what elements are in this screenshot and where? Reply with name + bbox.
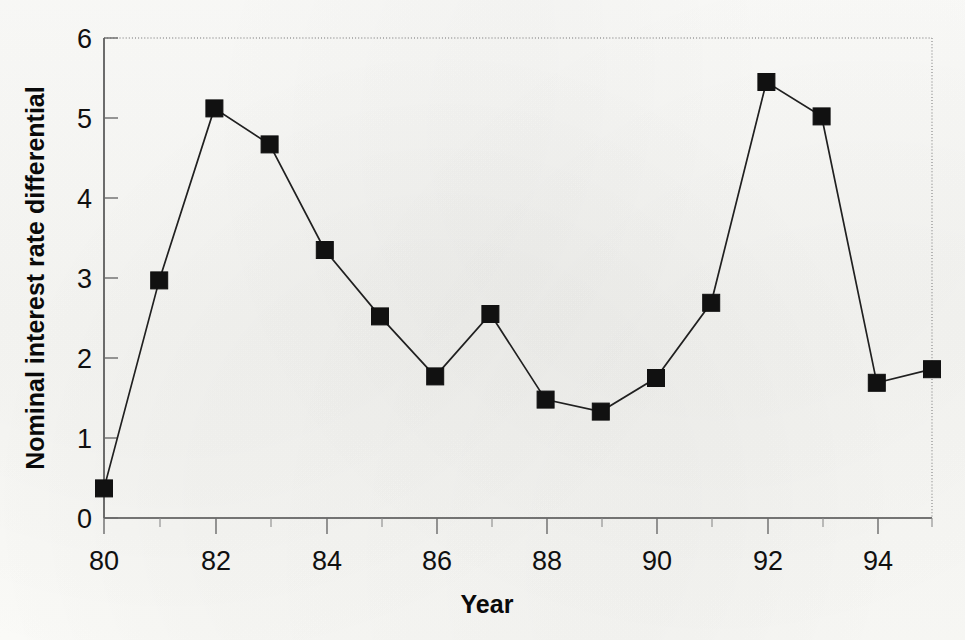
- x-tick-label-92: 92: [753, 546, 783, 576]
- data-point-85: [372, 308, 389, 325]
- data-point-95: [924, 361, 941, 378]
- data-point-87: [482, 306, 499, 323]
- series-markers: [96, 74, 941, 497]
- data-point-83: [261, 136, 278, 153]
- x-tick-label-88: 88: [532, 546, 562, 576]
- y-tick-label-3: 3: [77, 264, 92, 294]
- data-point-89: [592, 403, 609, 420]
- data-point-81: [151, 272, 168, 289]
- x-tick-label-90: 90: [642, 546, 672, 576]
- data-point-93: [813, 108, 830, 125]
- y-tick-label-2: 2: [77, 344, 92, 374]
- line-chart: 6 5 4 3 2 1 0: [0, 0, 965, 640]
- y-axis-title: Nominal interest rate differential: [21, 86, 49, 469]
- x-tick-label-80: 80: [89, 546, 119, 576]
- chart-canvas: 6 5 4 3 2 1 0: [0, 0, 965, 640]
- data-point-82: [206, 100, 223, 117]
- x-tick-label-84: 84: [312, 546, 342, 576]
- data-point-86: [427, 368, 444, 385]
- data-point-92: [758, 74, 775, 91]
- x-axis-title: Year: [461, 590, 514, 618]
- x-tick-label-94: 94: [863, 546, 893, 576]
- data-series: [96, 74, 941, 497]
- y-tick-label-4: 4: [77, 184, 92, 214]
- x-axis-ticks: [104, 518, 932, 534]
- data-point-88: [537, 391, 554, 408]
- x-tick-label-86: 86: [422, 546, 452, 576]
- data-point-94: [868, 374, 885, 391]
- x-tick-label-82: 82: [201, 546, 231, 576]
- data-point-84: [316, 242, 333, 259]
- data-point-91: [703, 294, 720, 311]
- data-point-90: [648, 370, 665, 387]
- y-axis-tick-labels: 6 5 4 3 2 1 0: [77, 24, 92, 534]
- data-point-80: [96, 480, 113, 497]
- y-tick-label-6: 6: [77, 24, 92, 54]
- y-tick-label-0: 0: [77, 504, 92, 534]
- y-tick-label-5: 5: [77, 104, 92, 134]
- x-axis-tick-labels: 80 82 84 86 88 90 92 94: [89, 546, 893, 576]
- y-tick-label-1: 1: [77, 424, 92, 454]
- series-line: [104, 82, 932, 488]
